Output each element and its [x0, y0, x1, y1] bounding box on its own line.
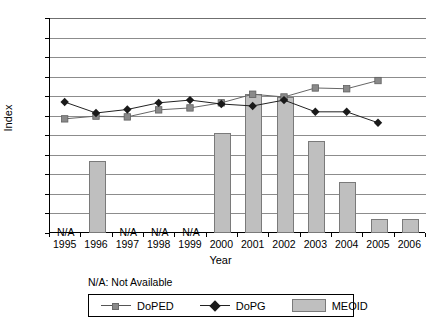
bar [89, 161, 106, 233]
legend-bar-swatch-icon [292, 299, 326, 312]
legend-item-doped: DoPED [101, 300, 174, 312]
legend-label-dopg: DoPG [236, 300, 266, 312]
plot-area: N/AN/AN/AN/A [49, 18, 425, 233]
legend-item-meoid: MEOID [292, 299, 368, 312]
gridline [50, 213, 426, 214]
x-tick-mark [80, 233, 81, 237]
x-tick-mark [268, 233, 269, 237]
x-axis-title: Year [0, 254, 441, 266]
x-tick-mark [237, 233, 238, 237]
x-tick-mark [425, 233, 426, 237]
bar [402, 219, 419, 233]
bar [245, 94, 262, 233]
gridline [50, 194, 426, 195]
gridline [50, 174, 426, 175]
gridline [50, 77, 426, 78]
gridline [50, 38, 426, 39]
x-tick-mark [143, 233, 144, 237]
x-tick-mark [112, 233, 113, 237]
legend: DoPED DoPG MEOID [88, 294, 354, 317]
x-tick-mark [362, 233, 363, 237]
legend-line-diamond-icon [200, 300, 230, 312]
gridline [50, 18, 426, 19]
x-tick-mark [394, 233, 395, 237]
bar [277, 97, 294, 233]
gridline [50, 57, 426, 58]
chart-figure: Index 4550556065707580859095100 N/AN/AN/… [0, 0, 441, 325]
legend-item-dopg: DoPG [200, 300, 266, 312]
x-tick-mark [206, 233, 207, 237]
x-tick-mark [49, 233, 50, 237]
gridline [50, 155, 426, 156]
legend-label-meoid: MEOID [332, 300, 368, 312]
bar [308, 141, 325, 233]
x-tick-label: 2006 [391, 239, 427, 250]
footnote: N/A: Not Available [88, 276, 172, 288]
bar [214, 133, 231, 233]
bar [371, 219, 388, 233]
gridline [50, 135, 426, 136]
gridline [50, 116, 426, 117]
x-tick-mark [300, 233, 301, 237]
legend-line-square-icon [101, 300, 131, 312]
x-tick-mark [331, 233, 332, 237]
legend-label-doped: DoPED [137, 300, 174, 312]
x-tick-mark [174, 233, 175, 237]
bar [339, 182, 356, 233]
gridline [50, 96, 426, 97]
y-axis-title: Index [2, 88, 14, 148]
